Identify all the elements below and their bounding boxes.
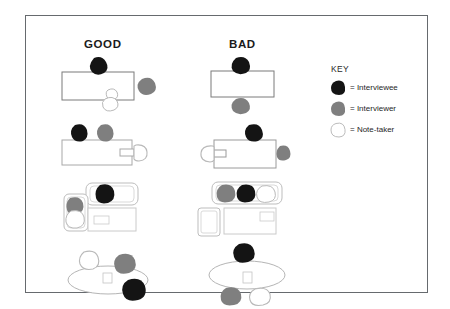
interviewer-blob: [276, 146, 290, 161]
legend-item-interviewee: = Interviewee: [331, 78, 446, 96]
interviewee-blob: [96, 184, 115, 203]
diagram-row2-bad: [196, 120, 326, 178]
interviewee-blob: [71, 124, 88, 141]
coffee-table-inner: [260, 212, 274, 221]
white-blob-icon: [331, 122, 345, 137]
legend-item-interviewer: = Interviewer: [331, 99, 446, 117]
legend-label-interviewer: = Interviewer: [350, 104, 396, 113]
interviewer-blob: [97, 124, 114, 141]
interviewee-blob: [237, 185, 256, 203]
interviewee-blob: [122, 279, 146, 301]
note-taker-blob: [257, 186, 276, 203]
figure-canvas: GOOD BAD: [0, 0, 450, 309]
figure-panel: GOOD BAD: [25, 15, 428, 293]
note-taker-blob: [201, 146, 214, 162]
diagram-row4-bad: [194, 238, 324, 308]
note-taker-blob: [66, 211, 85, 229]
table-object: [103, 273, 112, 283]
table-notch: [120, 149, 134, 156]
armchair-empty-seat: [201, 211, 217, 233]
gray-blob-icon: [331, 101, 345, 116]
interviewee-blob: [232, 57, 250, 74]
legend: KEY = Interviewee = Interviewer = Note-t…: [331, 64, 446, 141]
interviewee-blob: [245, 124, 263, 141]
diagram-row4-good: [56, 238, 186, 308]
diagram-row2-good: [58, 120, 188, 178]
legend-item-note-taker: = Note-taker: [331, 120, 446, 138]
rectangular-table: [211, 71, 274, 97]
interviewer-blob: [138, 78, 156, 95]
legend-label-note-taker: = Note-taker: [350, 125, 394, 134]
interviewer-blob: [232, 98, 250, 114]
diagram-row3-good: [54, 178, 184, 240]
column-heading-bad: BAD: [229, 38, 256, 50]
diagram-row3-bad: [192, 178, 322, 240]
diagram-row1-bad: [196, 54, 316, 116]
note-taker-blob-b: [102, 97, 118, 111]
rectangular-table: [62, 72, 134, 100]
note-taker-blob: [134, 145, 147, 161]
coffee-table-inner: [94, 216, 109, 224]
black-blob-icon: [331, 80, 345, 95]
column-heading-good: GOOD: [84, 38, 122, 50]
interviewer-blob: [217, 185, 236, 203]
table-object: [243, 272, 252, 283]
legend-label-interviewee: = Interviewee: [350, 83, 398, 92]
interviewee-blob: [90, 57, 108, 75]
legend-title: KEY: [331, 64, 446, 74]
interviewee-blob: [233, 243, 255, 263]
diagram-row1-good: [58, 54, 178, 116]
interviewer-blob: [221, 287, 242, 305]
note-taker-blob: [80, 251, 99, 269]
table-notch: [214, 150, 226, 157]
note-taker-blob: [250, 288, 271, 305]
interviewer-blob: [114, 254, 136, 274]
